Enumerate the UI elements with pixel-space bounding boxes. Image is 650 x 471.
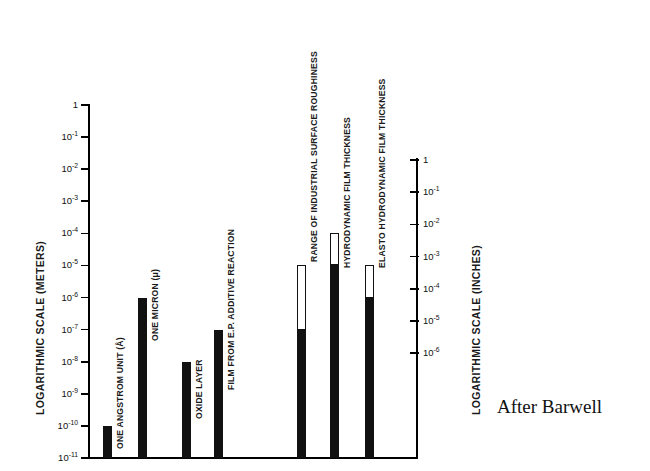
- axis-tick: [410, 224, 419, 226]
- chart-bar-label: FILM FROM E.P. ADDITIVE REACTION: [226, 229, 236, 390]
- axis-tick: [81, 168, 90, 170]
- axis-tick: [81, 361, 90, 363]
- axis-tick-label: 10-2: [423, 219, 440, 229]
- left-axis-title: LOGARITHMIC SCALE (METERS): [34, 241, 46, 415]
- left-axis-line: [88, 105, 90, 459]
- axis-tick-label: 10-1: [423, 187, 440, 197]
- axis-tick-label: 10-2: [46, 164, 78, 174]
- axis-tick: [81, 233, 90, 235]
- logarithmic-scale-chart: LOGARITHMIC SCALE (METERS) LOGARITHMIC S…: [0, 0, 650, 471]
- axis-tick-label: 10-8: [46, 357, 78, 367]
- axis-tick-label: 10-3: [423, 252, 440, 262]
- axis-tick-label: 10-5: [423, 316, 440, 326]
- axis-tick-label: 10-4: [46, 228, 78, 238]
- right-axis-line: [416, 158, 418, 459]
- chart-bar: [182, 362, 191, 458]
- chart-bar: [365, 265, 374, 458]
- axis-tick-label: 10-10: [46, 421, 78, 431]
- axis-tick-label: 10-5: [46, 260, 78, 270]
- axis-tick-label: 1: [46, 100, 78, 110]
- axis-tick: [410, 159, 419, 161]
- axis-tick-label: 10-1: [46, 132, 78, 142]
- right-axis-title: LOGARITHMIC SCALE (INCHES): [470, 245, 482, 415]
- chart-bar-label: OXIDE LAYER: [194, 359, 204, 419]
- axis-tick-label: 10-6: [46, 293, 78, 303]
- axis-tick: [81, 297, 90, 299]
- axis-tick: [81, 265, 90, 267]
- axis-tick: [81, 329, 90, 331]
- axis-tick: [81, 393, 90, 395]
- chart-bar-label: RANGE OF INDUSTRIAL SURFACE ROUGHINESS: [309, 51, 319, 262]
- axis-tick-label: 10-3: [46, 196, 78, 206]
- axis-tick: [410, 288, 419, 290]
- chart-bar-fill: [366, 297, 373, 457]
- chart-bar: [297, 265, 306, 458]
- axis-tick-label: 10-4: [423, 284, 440, 294]
- chart-bar: [330, 233, 339, 458]
- axis-tick: [81, 200, 90, 202]
- axis-tick: [81, 136, 90, 138]
- axis-tick-label: 10-11: [46, 453, 78, 463]
- axis-tick: [410, 320, 419, 322]
- axis-tick-label: 1: [423, 155, 428, 165]
- axis-tick: [81, 425, 90, 427]
- axis-tick: [410, 256, 419, 258]
- chart-bar-label: ELASTO HYDRODYNAMIC FILM THICKNESS: [377, 78, 387, 268]
- chart-bar: [214, 330, 223, 458]
- chart-bar-fill: [331, 264, 338, 457]
- chart-bar: [103, 426, 112, 458]
- axis-tick-label: 10-9: [46, 389, 78, 399]
- chart-bar-label: HYDRODYNAMIC FILM THICKNESS: [342, 117, 352, 268]
- axis-tick: [410, 191, 419, 193]
- attribution-text: After Barwell: [497, 396, 602, 418]
- chart-bar-fill: [298, 329, 305, 457]
- chart-bar-label: ONE MICRON (μ): [150, 269, 160, 341]
- axis-tick-label: 10-6: [423, 348, 440, 358]
- axis-tick-label: 10-7: [46, 325, 78, 335]
- axis-tick: [81, 457, 90, 459]
- chart-bar: [138, 298, 147, 458]
- axis-tick: [410, 352, 419, 354]
- axis-tick: [81, 104, 90, 106]
- chart-bar-label: ONE ANGSTROM UNIT (Å): [115, 337, 125, 449]
